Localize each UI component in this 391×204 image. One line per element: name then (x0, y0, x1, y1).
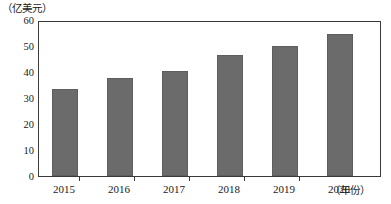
plot-area (38, 21, 381, 177)
bar-2016 (107, 78, 133, 176)
x-tick-mark-3 (189, 177, 190, 181)
bar-2018 (217, 55, 243, 176)
y-tick-label-10: 10 (4, 146, 34, 156)
x-tick-label-2016: 2016 (89, 183, 149, 196)
y-tick-label-30: 30 (4, 94, 34, 104)
x-tick-mark-5 (299, 177, 300, 181)
y-tick-label-0: 0 (4, 172, 34, 182)
y-tick-label-60: 60 (4, 16, 34, 26)
bar-2015 (52, 89, 78, 176)
bar-2017 (162, 71, 188, 176)
bar-2020 (327, 34, 353, 176)
x-tick-label-2018: 2018 (199, 183, 259, 196)
x-axis-unit-label: （年份） (330, 184, 370, 197)
y-axis-unit-label: （亿美元） (2, 2, 52, 15)
y-tick-label-20: 20 (4, 120, 34, 130)
y-tick-label-40: 40 (4, 68, 34, 78)
y-tick-label-50: 50 (4, 42, 34, 52)
x-tick-mark-2 (134, 177, 135, 181)
bar-chart-figure: （亿美元） 0 10 20 30 40 50 60 2015 2016 2017… (0, 0, 391, 204)
x-tick-label-2015: 2015 (34, 183, 94, 196)
x-tick-mark-1 (79, 177, 80, 181)
x-tick-label-2017: 2017 (144, 183, 204, 196)
x-tick-label-2019: 2019 (254, 183, 314, 196)
bar-2019 (272, 46, 298, 176)
y-axis-tick-labels: 0 10 20 30 40 50 60 (0, 21, 34, 177)
x-tick-mark-4 (244, 177, 245, 181)
